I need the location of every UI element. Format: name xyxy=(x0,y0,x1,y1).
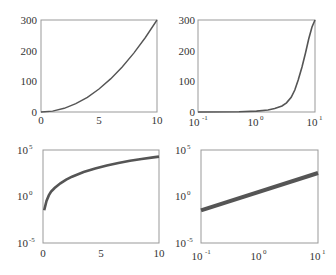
y-tick: 0 xyxy=(32,106,38,118)
x-tick-exp: 0 xyxy=(260,114,264,122)
x-tick-exp: 1 xyxy=(322,248,326,256)
y-tick: 10 xyxy=(17,144,29,156)
y-tick: 10 xyxy=(175,144,187,156)
y-tick: 200 xyxy=(179,45,196,57)
y-tick-exp: -5 xyxy=(29,236,35,244)
curve xyxy=(201,173,318,210)
x-tick: 10 xyxy=(307,116,319,128)
y-tick-exp: 0 xyxy=(187,189,191,197)
x-tick: 10 xyxy=(154,247,166,259)
x-tick-exp: -1 xyxy=(202,114,208,122)
y-tick: 0 xyxy=(190,106,196,118)
x-tick: 10 xyxy=(310,250,322,262)
x-tick: 10 xyxy=(192,250,204,262)
axes-box xyxy=(41,20,157,112)
axes-box xyxy=(43,150,159,243)
x-tick: 5 xyxy=(98,247,104,259)
y-tick: 100 xyxy=(21,75,38,87)
y-tick: 10 xyxy=(17,190,29,202)
axes-box xyxy=(201,150,318,243)
plot-semilogx: 10 -1 10 0 10 1 0 100 200 300 xyxy=(179,14,324,128)
y-tick-exp: -5 xyxy=(187,236,193,244)
y-tick: 10 xyxy=(175,237,187,249)
plot-semilogy: 0 5 10 10 -5 10 0 10 5 xyxy=(17,143,165,259)
y-tick: 300 xyxy=(21,14,38,26)
x-tick: 10 xyxy=(152,114,164,126)
y-tick: 10 xyxy=(17,237,29,249)
curve xyxy=(198,20,315,112)
y-tick: 300 xyxy=(179,14,196,26)
y-tick-exp: 5 xyxy=(29,143,33,151)
x-tick: 0 xyxy=(40,247,46,259)
y-tick-exp: 5 xyxy=(187,143,191,151)
y-tick-exp: 0 xyxy=(29,189,33,197)
y-tick: 100 xyxy=(179,75,196,87)
plot-loglog: 10 -1 10 0 10 1 10 -5 10 0 10 5 xyxy=(175,143,326,262)
x-tick-exp: 1 xyxy=(319,114,323,122)
x-tick: 10 xyxy=(248,116,260,128)
plot-linear-linear: 0 5 10 0 100 200 300 xyxy=(21,14,164,126)
x-tick-exp: -1 xyxy=(205,248,211,256)
curve xyxy=(44,157,159,211)
x-tick: 10 xyxy=(251,250,263,262)
y-tick: 200 xyxy=(21,45,38,57)
axes-box xyxy=(198,20,315,112)
y-tick: 10 xyxy=(175,190,187,202)
x-tick: 5 xyxy=(96,114,102,126)
figure: 0 5 10 0 100 200 300 10 -1 10 0 10 1 0 1… xyxy=(0,0,336,275)
x-tick-exp: 0 xyxy=(263,248,267,256)
curve xyxy=(41,20,157,112)
x-tick: 0 xyxy=(38,114,44,126)
